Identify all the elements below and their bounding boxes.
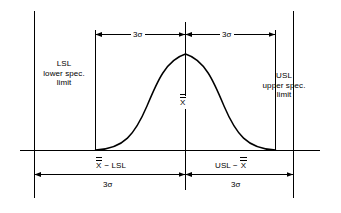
bottom-left-expression-text: − LSL xyxy=(104,161,126,170)
x-double-bar-symbol-right: X xyxy=(241,160,246,171)
process-capability-diagram: LSL lower spec. limit USL upper spec. li… xyxy=(0,0,341,213)
bottom-right-sigma-label: 3σ xyxy=(229,180,243,190)
usl-label-group: USL upper spec. limit xyxy=(251,71,317,100)
x-double-bar-symbol-left: X xyxy=(96,160,101,171)
usl-line2-label: limit xyxy=(277,90,292,99)
bottom-right-sigma-text: 3σ xyxy=(231,180,241,189)
diagram-canvas xyxy=(0,0,341,213)
top-left-sigma-text: 3σ xyxy=(133,30,143,39)
top-right-sigma-text: 3σ xyxy=(222,30,232,39)
bottom-left-sigma-label: 3σ xyxy=(101,180,115,190)
usl-line1-label: upper spec. xyxy=(263,81,306,90)
lsl-abbr-label: LSL xyxy=(57,59,72,68)
bottom-right-expression-text: USL − xyxy=(215,161,238,170)
bottom-left-sigma-text: 3σ xyxy=(103,180,113,189)
bottom-right-expression-label: USL −X xyxy=(212,160,249,171)
top-right-sigma-label: 3σ xyxy=(220,30,234,40)
lsl-line2-label: limit xyxy=(57,78,72,87)
top-left-sigma-label: 3σ xyxy=(131,30,145,40)
lsl-line1-label: lower spec. xyxy=(43,69,85,78)
x-double-bar-symbol-center: X xyxy=(180,97,185,108)
mean-symbol-label: X xyxy=(178,96,187,109)
bottom-left-expression-label: X− LSL xyxy=(93,160,129,171)
usl-abbr-label: USL xyxy=(276,71,292,80)
lsl-label-group: LSL lower spec. limit xyxy=(31,59,97,88)
